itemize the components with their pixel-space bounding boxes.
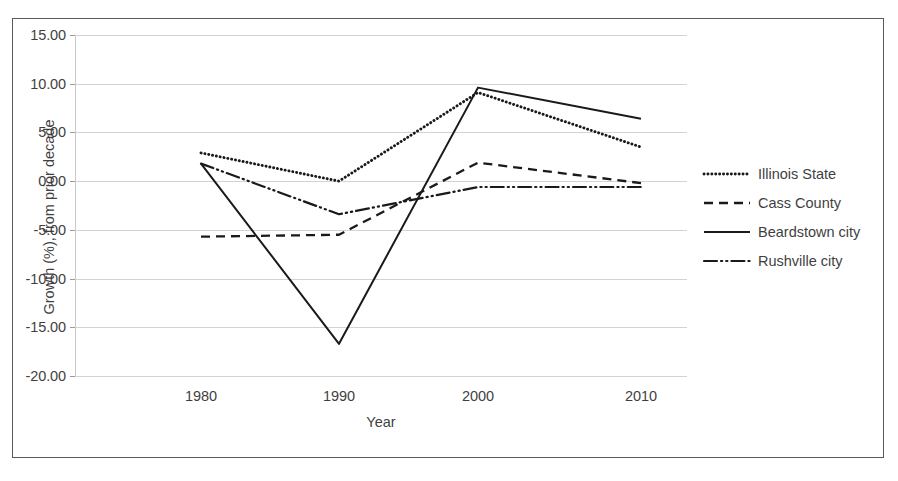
legend-swatch-icon [703,168,751,180]
legend-swatch-icon [703,197,751,209]
legend-item-rushville-city[interactable]: Rushville city [703,246,883,275]
chart-legend: Illinois StateCass CountyBeardstown city… [703,159,883,275]
series-line-rushville-city [201,164,641,215]
y-tick-mark [70,376,75,377]
x-tick-label: 1980 [185,388,217,404]
legend-item-cass-county[interactable]: Cass County [703,188,883,217]
chart-frame: Growth (%), from prior decade 15.0010.00… [12,18,884,458]
legend-label: Rushville city [758,253,843,269]
legend-label: Cass County [758,195,841,211]
gridline [75,376,687,377]
x-tick-label: 1990 [323,388,355,404]
y-tick-label: 15.00 [30,27,66,43]
x-tick-label: 2010 [625,388,657,404]
y-tick-label: 0.00 [38,173,66,189]
series-lines [75,35,687,376]
y-tick-label: -5.00 [33,222,66,238]
y-tick-label: 10.00 [30,76,66,92]
legend-label: Illinois State [758,166,836,182]
y-tick-label: -10.00 [25,271,66,287]
series-line-beardstown-city [201,88,641,344]
legend-label: Beardstown city [758,224,860,240]
legend-item-beardstown-city[interactable]: Beardstown city [703,217,883,246]
y-tick-label: -15.00 [25,319,66,335]
legend-item-illinois-state[interactable]: Illinois State [703,159,883,188]
plot-area: 15.0010.005.000.00-5.00-10.00-15.00-20.0… [75,35,687,376]
y-tick-label: -20.00 [25,368,66,384]
x-axis-title: Year [75,414,687,430]
x-tick-label: 2000 [462,388,494,404]
legend-swatch-icon [703,255,751,267]
y-tick-label: 5.00 [38,124,66,140]
series-line-cass-county [201,163,641,237]
legend-swatch-icon [703,226,751,238]
